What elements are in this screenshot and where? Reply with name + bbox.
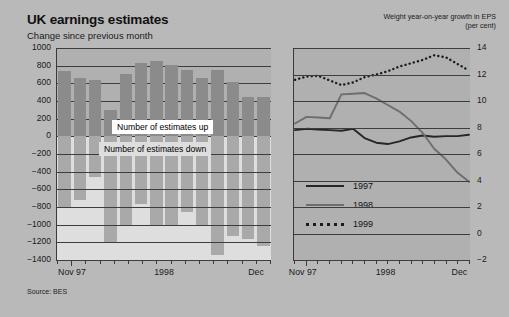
y-axis-tick-label: 0	[46, 130, 51, 140]
bar-estimates-up	[242, 97, 255, 137]
x-axis-tick	[71, 260, 72, 266]
x-axis-tick	[387, 260, 388, 264]
legend-item-1998[interactable]: 1998	[306, 195, 373, 214]
x-axis-tick	[199, 260, 200, 264]
x-axis-tick	[142, 260, 143, 264]
bar-estimates-up	[227, 82, 240, 137]
bar-estimates-up	[89, 80, 102, 137]
x-axis-label: 1998	[154, 267, 174, 277]
title-block: UK earnings estimates Change since previ…	[27, 13, 168, 41]
x-axis-tick	[227, 260, 228, 264]
gridline	[294, 75, 470, 76]
right-chart-title-line2: (per cent)	[383, 21, 496, 30]
y-axis-tick-label: 1000	[32, 42, 51, 52]
bar-estimates-down	[227, 136, 240, 236]
x-axis-tick	[213, 260, 214, 264]
gridline	[294, 260, 470, 261]
bar-estimates-up	[257, 97, 270, 136]
x-axis-tick	[270, 260, 271, 264]
legend-swatch-1998	[306, 200, 344, 210]
gridline	[57, 207, 271, 208]
x-axis-tick	[114, 260, 115, 264]
gridline	[57, 66, 271, 67]
x-axis-label: Dec	[248, 267, 264, 277]
bar-chart-uk-earnings-estimates: 10008006004002000−200−400−600−800−1000−1…	[56, 48, 271, 261]
gridline	[294, 154, 470, 155]
y-axis-tick-label: 0	[477, 228, 482, 238]
x-axis-label: Nov 97	[58, 267, 86, 277]
band-label-estimates-down: Number of estimates down	[99, 142, 211, 156]
gridline	[57, 225, 271, 226]
y-axis-tick-label: 8	[477, 122, 482, 132]
y-axis-tick-label: −200	[32, 148, 51, 158]
x-axis-tick	[57, 260, 58, 264]
legend-item-1999[interactable]: 1999	[306, 214, 373, 233]
page-title: UK earnings estimates	[27, 13, 168, 27]
gridline	[294, 101, 470, 102]
source-note: Source: BES	[27, 288, 67, 295]
y-axis-tick-label: 200	[37, 113, 51, 123]
line-series-1998	[295, 93, 469, 182]
bar-estimates-down	[242, 136, 255, 238]
x-axis-tick	[306, 260, 307, 266]
x-axis-tick	[399, 260, 400, 264]
y-axis-tick-label: 14	[477, 42, 486, 52]
gridline	[57, 242, 271, 243]
x-axis-tick	[85, 260, 86, 264]
gridline	[294, 234, 470, 235]
y-axis-tick-label: 2	[477, 201, 482, 211]
x-axis-tick	[457, 260, 458, 264]
y-axis-tick-label: 10	[477, 95, 486, 105]
legend-swatch-1999	[306, 219, 344, 229]
x-axis-tick	[352, 260, 353, 264]
line-series-1999	[295, 55, 469, 85]
bar-estimates-down	[257, 136, 270, 246]
y-axis-tick-label: 400	[37, 95, 51, 105]
bar-estimates-up	[58, 71, 71, 136]
y-axis-tick-label: −2	[477, 254, 487, 264]
line-series-1997	[295, 129, 469, 144]
x-axis-label: Nov 97	[289, 267, 317, 277]
y-axis-tick-label: −800	[32, 201, 51, 211]
x-axis-tick	[469, 260, 470, 264]
y-axis-tick-label: −600	[32, 183, 51, 193]
legend-label: 1999	[353, 219, 373, 229]
gridline	[57, 172, 271, 173]
y-axis-tick-label: −400	[32, 166, 51, 176]
x-axis-tick	[376, 260, 377, 264]
x-axis-tick	[446, 260, 447, 264]
y-axis-tick-label: 6	[477, 148, 482, 158]
band-label-estimates-up: Number of estimates up	[112, 120, 213, 134]
gridline	[294, 128, 470, 129]
right-chart-title: Weight year-on-year growth in EPS (per c…	[383, 12, 496, 30]
page-subtitle: Change since previous month	[27, 30, 168, 41]
y-axis-tick-label: 800	[37, 60, 51, 70]
legend-swatch-1997	[306, 181, 344, 191]
x-axis-tick	[171, 260, 172, 264]
x-axis-tick	[422, 260, 423, 264]
y-axis-tick-label: −1200	[27, 236, 51, 246]
y-axis-tick-label: −1000	[27, 219, 51, 229]
gridline	[294, 48, 470, 49]
x-axis-tick	[294, 260, 295, 264]
gridline	[57, 48, 271, 49]
x-axis-label: 1998	[376, 267, 396, 277]
x-axis-tick	[185, 260, 186, 264]
x-axis-tick	[156, 260, 157, 264]
y-axis-tick-label: 4	[477, 175, 482, 185]
bar-estimates-up	[74, 78, 87, 136]
x-axis-tick	[100, 260, 101, 264]
y-axis-tick-label: 600	[37, 77, 51, 87]
x-axis-tick	[341, 260, 342, 264]
gridline	[57, 260, 271, 261]
x-axis-tick	[364, 260, 365, 264]
legend-item-1997[interactable]: 1997	[306, 176, 373, 195]
figure-panel: UK earnings estimates Change since previ…	[0, 0, 509, 317]
x-axis-tick	[329, 260, 330, 264]
bar-estimates-down	[74, 136, 87, 200]
line-chart-eps-growth: 199719981999 14121086420−2Nov 971998Dec	[293, 48, 470, 261]
legend-label: 1998	[353, 200, 373, 210]
gridline	[294, 181, 470, 182]
y-axis-tick-label: −1400	[27, 254, 51, 264]
legend: 199719981999	[306, 176, 373, 233]
